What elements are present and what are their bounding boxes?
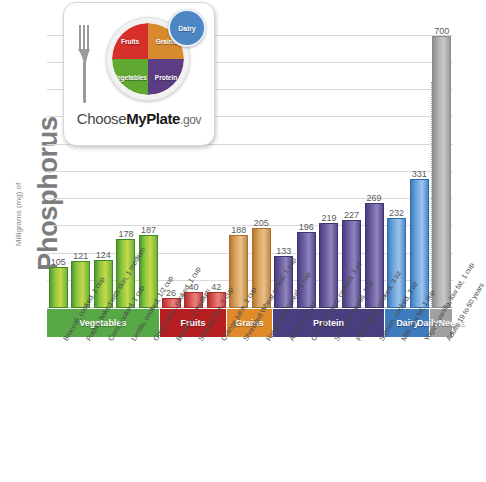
bar-value-label: 121 (73, 251, 88, 261)
wordmark-choose: Choose (77, 110, 126, 127)
plate-label-protein: Protein (155, 74, 177, 81)
y-axis-subtitle: Milligrams (mg) of (14, 160, 23, 270)
bar-value-label: 196 (299, 222, 314, 232)
wordmark-gov: .gov (180, 113, 201, 127)
bar-value-label: 42 (211, 282, 221, 292)
plate-label-dairy: Dairy (178, 25, 196, 32)
plate-label-fruits: Fruits (121, 38, 139, 45)
bar-value-label: 105 (51, 257, 66, 267)
bar-value-label: 178 (118, 229, 133, 239)
y-axis-title-group: Phosphorus Milligrams (mg) of (0, 60, 46, 350)
x-axis-label-row: Broccoli, cooked, 1 cupPotato, baked wit… (0, 338, 455, 482)
bar-value-label: 188 (231, 225, 246, 235)
wordmark-myplate: MyPlate (126, 110, 180, 127)
gridline (47, 198, 453, 199)
bar-value-label: 187 (141, 225, 156, 235)
plate-dairy-circle: Dairy (168, 9, 206, 47)
fork-icon (78, 25, 92, 103)
bar-value-label: 700 (434, 26, 449, 36)
bar: 196 (297, 232, 316, 308)
myplate-wordmark: ChooseMyPlate.gov (64, 110, 214, 127)
plate-segment-fruits: Fruits (112, 23, 148, 59)
plate-label-vegetables: Vegetables (113, 74, 147, 81)
bar-value-label: 269 (367, 193, 382, 203)
myplate-logo: Fruits Grains Vegetables Protein Dairy C… (63, 2, 215, 146)
bar-value-label: 205 (254, 218, 269, 228)
bar-value-label: 331 (412, 169, 427, 179)
gridline (47, 171, 453, 172)
plate-segment-vegetables: Vegetables (112, 59, 148, 95)
bar: 700 (432, 36, 451, 308)
daily-needs-reference-line (431, 82, 432, 308)
bar-value-label: 124 (96, 250, 111, 260)
bar-value-label: 219 (321, 213, 336, 223)
plate-segment-protein: Protein (148, 59, 184, 95)
bar-value-label: 232 (389, 208, 404, 218)
bar: 105 (49, 267, 68, 308)
bar-value-label: 133 (276, 246, 291, 256)
bar-value-label: 227 (344, 210, 359, 220)
